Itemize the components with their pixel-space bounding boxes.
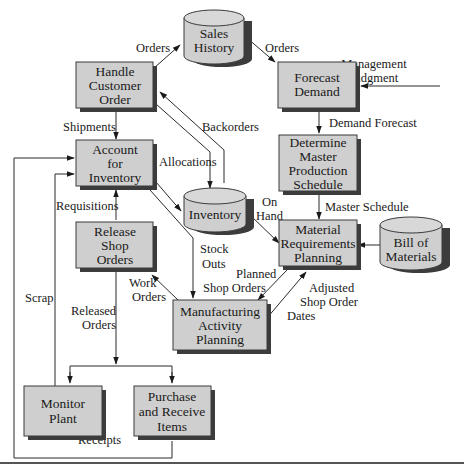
node-sales-history: Sales History — [184, 10, 252, 67]
edge-released-orders-split — [70, 366, 172, 380]
label-orders-work: Orders — [132, 290, 166, 304]
node-text: Customer — [89, 78, 142, 93]
node-text: Sales — [200, 26, 229, 41]
node-text: Plant — [49, 411, 77, 426]
node-text: Order — [99, 92, 131, 107]
node-inventory: Inventory — [184, 188, 254, 235]
label-allocations: Allocations — [159, 155, 217, 169]
node-determine-master-production-schedule: Determine Master Production Schedule — [279, 135, 361, 195]
node-purchase-and-receive-items: Purchase and Receive Items — [134, 386, 215, 440]
node-text: and Receive — [139, 404, 205, 419]
node-text: Planning — [294, 250, 342, 265]
label-orders-left: Orders — [136, 41, 170, 55]
edge-account-to-inventory — [156, 182, 181, 211]
label-work: Work — [129, 276, 157, 290]
node-text: Activity — [198, 318, 242, 333]
label-released: Released — [71, 304, 117, 318]
node-release-shop-orders: Release Shop Orders — [76, 222, 157, 272]
node-text: Handle — [96, 64, 135, 79]
node-text: Purchase — [148, 389, 197, 404]
node-text: Monitor — [41, 396, 86, 411]
label-orders-right: Orders — [265, 41, 299, 55]
label-shipments: Shipments — [63, 120, 116, 134]
node-text: Manufacturing — [180, 304, 260, 319]
label-adjusted: Adjusted — [309, 281, 355, 295]
node-forecast-demand: Forecast Demand — [278, 62, 360, 112]
label-requisitions: Requisitions — [56, 199, 119, 213]
label-outs: Outs — [202, 257, 226, 271]
node-text: for — [107, 156, 123, 171]
edge-allocations — [156, 104, 210, 188]
edge-backorders — [160, 92, 224, 183]
node-text: Material — [295, 222, 341, 237]
node-text: Orders — [97, 252, 134, 267]
label-on: On — [262, 195, 278, 209]
node-text: Production — [288, 163, 347, 178]
label-dates: Dates — [287, 309, 316, 323]
label-released-orders: Orders — [82, 318, 116, 332]
node-text: Account — [92, 142, 138, 157]
node-text: Demand — [294, 84, 340, 99]
node-text: Materials — [386, 249, 437, 264]
label-demand-forecast: Demand Forecast — [329, 116, 417, 130]
mrp-flow-diagram: Orders Orders Management Judgment Demand… — [0, 0, 464, 467]
label-master-schedule: Master Schedule — [325, 200, 409, 214]
node-text: Shop — [101, 238, 129, 253]
node-text: Forecast — [294, 70, 340, 85]
node-text: Inventory — [89, 170, 142, 185]
label-planned: Planned — [236, 267, 277, 281]
node-text: Items — [157, 419, 187, 434]
label-scrap: Scrap — [25, 291, 53, 305]
node-text: Requirements — [281, 236, 356, 251]
node-manufacturing-activity-planning: Manufacturing Activity Planning — [173, 300, 271, 354]
node-text: Inventory — [189, 207, 242, 222]
node-monitor-plant: Monitor Plant — [24, 386, 106, 440]
label-stock: Stock — [200, 242, 229, 256]
node-material-requirements-planning: Material Requirements Planning — [279, 220, 361, 270]
label-backorders: Backorders — [202, 120, 259, 134]
node-bill-of-materials: Bill of Materials — [380, 217, 450, 273]
node-handle-customer-order: Handle Customer Order — [76, 62, 157, 112]
node-text: Release — [94, 224, 136, 239]
label-shop-orders: Shop Orders — [203, 281, 266, 295]
node-account-for-inventory: Account for Inventory — [76, 140, 157, 190]
node-text: History — [194, 40, 235, 55]
node-text: Schedule — [293, 177, 343, 192]
node-text: Master — [299, 149, 337, 164]
node-text: Planning — [196, 332, 244, 347]
node-text: Determine — [290, 135, 347, 150]
label-shop-order: Shop Order — [300, 295, 359, 309]
node-text: Bill of — [394, 235, 429, 250]
